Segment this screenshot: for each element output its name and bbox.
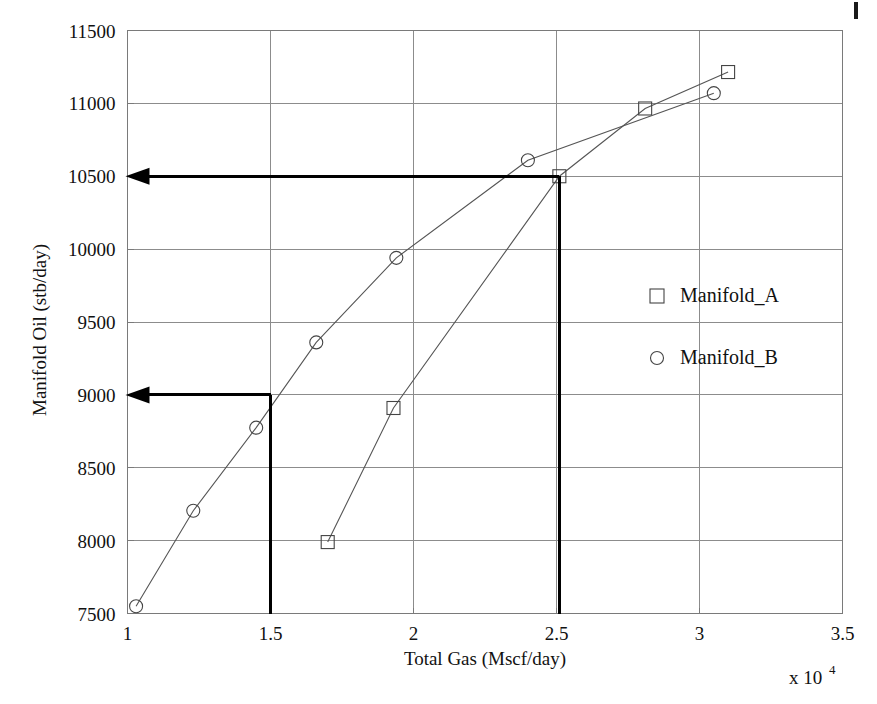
y-tick-label: 11000 — [69, 93, 116, 114]
circle-marker — [130, 600, 143, 613]
x-axis-multiplier-exponent: 4 — [829, 662, 836, 677]
y-tick-label: 8500 — [78, 458, 116, 479]
legend-entry-manifold_b: Manifold_B — [651, 346, 778, 368]
series-line — [328, 72, 728, 542]
y-axis-title: Manifold Oil (stb/day) — [29, 244, 51, 416]
circle-marker — [651, 352, 664, 365]
x-tick-label: 2 — [409, 623, 419, 644]
y-tick-labels: 7500800085009000950010000105001100011500 — [68, 21, 116, 625]
annotation-operating-point-a — [126, 168, 560, 614]
legend-label: Manifold_B — [680, 346, 778, 368]
legend-entry-manifold_a: Manifold_A — [650, 284, 779, 306]
legend-label: Manifold_A — [680, 284, 779, 306]
grid-lines — [128, 31, 843, 614]
legend: Manifold_AManifold_B — [650, 284, 779, 368]
arrow-head — [126, 168, 150, 185]
y-tick-label: 9000 — [78, 385, 116, 406]
x-tick-label: 1.5 — [259, 623, 283, 644]
series-manifold_b — [130, 87, 721, 613]
x-tick-label: 2.5 — [545, 623, 569, 644]
x-tick-label: 3.5 — [831, 623, 855, 644]
square-marker — [650, 289, 664, 303]
corner-tick-artifact — [854, 2, 858, 19]
y-tick-label: 10500 — [68, 166, 116, 187]
square-marker — [722, 66, 735, 79]
chart-figure: 7500800085009000950010000105001100011500… — [0, 0, 877, 704]
y-tick-label: 10000 — [68, 239, 116, 260]
x-tick-label: 1 — [123, 623, 133, 644]
series-line — [136, 93, 714, 606]
y-tick-label: 8000 — [78, 531, 116, 552]
x-tick-label: 3 — [695, 623, 705, 644]
annotation-arrows — [126, 168, 560, 614]
arrow-head — [126, 386, 150, 403]
annotation-operating-point-b — [126, 386, 271, 613]
chart-canvas: 7500800085009000950010000105001100011500… — [0, 0, 877, 704]
y-tick-label: 7500 — [78, 604, 116, 625]
y-tick-label: 9500 — [78, 312, 116, 333]
series-manifold_a — [321, 66, 734, 549]
x-tick-labels: 11.522.533.5 — [123, 623, 855, 644]
data-series — [130, 66, 735, 613]
square-marker — [321, 536, 334, 549]
x-axis-multiplier-base: x 10 — [789, 667, 822, 688]
y-tick-label: 11500 — [69, 21, 116, 42]
x-axis-title: Total Gas (Mscf/day) — [404, 648, 566, 670]
